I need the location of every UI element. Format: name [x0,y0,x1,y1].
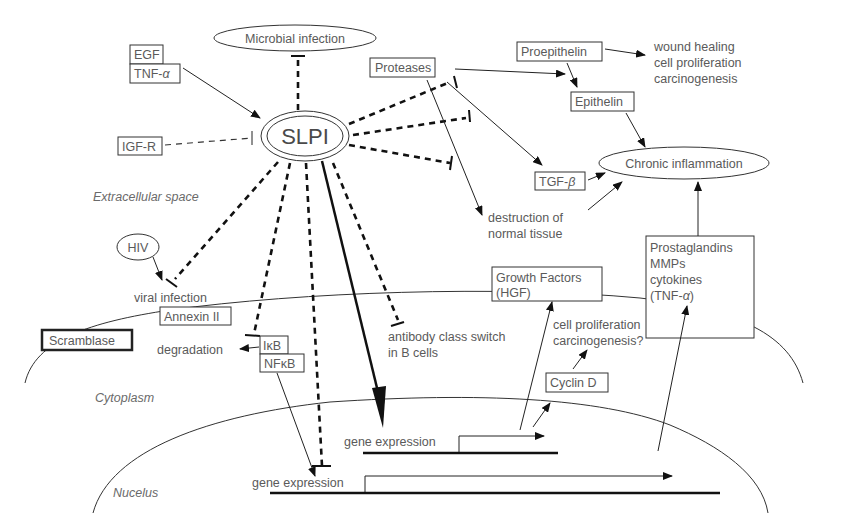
epithelin-node: Epithelin [571,92,634,111]
nuclear-membrane [93,397,768,513]
prostaglandins-node: Prostaglandins MMPs cytokines (TNF-α) [646,236,754,338]
svg-text:Cyclin D: Cyclin D [550,376,597,390]
svg-text:IκB: IκB [263,339,281,353]
degradation-label: degradation [157,343,223,357]
nucleus-label: Nucelus [113,486,158,500]
wound-effects-line3: carcinogenesis [654,72,737,86]
svg-text:EGF: EGF [134,48,160,62]
svg-text:(HGF): (HGF) [496,286,531,300]
annexin-node: Annexin II [160,307,231,325]
ikb-node: IκB [260,336,288,354]
cell-prolif2-line1: cell proliferation [553,318,641,332]
igf-r-node: IGF-R [118,137,162,155]
svg-text:Prostaglandins: Prostaglandins [650,241,733,255]
svg-text:Epithelin: Epithelin [575,95,623,109]
slpi-label: SLPI [281,124,329,149]
slpi-pathway-diagram: SLPI Microbial infection EGF TNF-α IGF-R… [0,0,855,528]
antibody-line1: antibody class switch [388,330,505,344]
gene-expression-2-label: gene expression [252,476,344,490]
svg-text:TGF-β: TGF-β [539,175,575,189]
wound-effects-line2: cell proliferation [654,56,742,70]
big-arrowhead [372,386,386,428]
slpi-node: SLPI [261,111,349,161]
svg-text:Microbial infection: Microbial infection [245,32,345,46]
svg-text:Chronic inflammation: Chronic inflammation [625,157,742,171]
destruction-line1: destruction of [488,211,564,225]
svg-text:TNF-α: TNF-α [134,67,170,81]
cytoplasm-label: Cytoplasm [95,391,154,405]
growth-factors-node: Growth Factors (HGF) [492,267,602,301]
svg-text:cytokines: cytokines [650,273,702,287]
svg-text:MMPs: MMPs [650,257,685,271]
egf-node: EGF [130,45,163,64]
svg-text:Annexin II: Annexin II [164,310,220,324]
svg-text:Growth Factors: Growth Factors [496,271,581,285]
extracellular-space-label: Extracellular space [93,190,199,204]
wound-effects-line1: wound healing [653,40,735,54]
svg-text:Proteases: Proteases [375,61,431,75]
proteases-node: Proteases [370,58,435,77]
cell-prolif2-line2: carcinogenesis? [553,334,643,348]
microbial-infection-node: Microbial infection [214,25,376,51]
svg-text:NFκB: NFκB [264,357,295,371]
svg-text:IGF-R: IGF-R [122,140,156,154]
nfkb-node: NFκB [260,354,304,372]
viral-infection-label: viral infection [134,291,207,305]
tnf-alpha-node: TNF-α [130,64,180,83]
hiv-node: HIV [117,234,159,260]
svg-text:Scramblase: Scramblase [49,334,115,348]
cyclin-d-node: Cyclin D [546,373,608,392]
gene-expression-1-label: gene expression [344,435,436,449]
svg-text:HIV: HIV [128,241,150,255]
destruction-line2: normal tissue [488,227,562,241]
svg-text:(TNF-α): (TNF-α) [650,289,694,303]
proepithelin-node: Proepithelin [517,42,602,61]
scramblase-node: Scramblase [42,330,132,350]
antibody-line2: in B cells [388,346,438,360]
tgf-beta-node: TGF-β [535,172,585,190]
chronic-inflammation-node: Chronic inflammation [599,147,769,179]
svg-text:Proepithelin: Proepithelin [521,45,587,59]
